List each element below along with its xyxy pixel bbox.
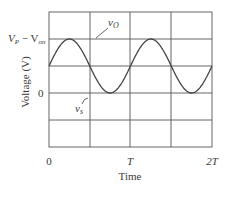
- x-tick-2T: 2T: [206, 155, 219, 167]
- y-tick-zero: 0: [38, 87, 44, 99]
- y-axis-label: Voltage (V): [19, 56, 32, 108]
- chart-svg: vO vs VP − Von 0 Voltage (V) 0 T 2T Time: [0, 0, 230, 216]
- x-tick-0: 0: [46, 155, 52, 167]
- x-tick-T: T: [127, 155, 134, 167]
- vs-label: vs: [75, 102, 83, 116]
- x-axis-label: Time: [119, 170, 142, 182]
- vo-label: vO: [108, 16, 119, 30]
- vo-pointer: [96, 28, 108, 38]
- vs-pointer: [82, 98, 88, 104]
- y-tick-peak: VP − Von: [8, 32, 46, 46]
- grid: [49, 12, 212, 147]
- plot-border: [49, 12, 212, 147]
